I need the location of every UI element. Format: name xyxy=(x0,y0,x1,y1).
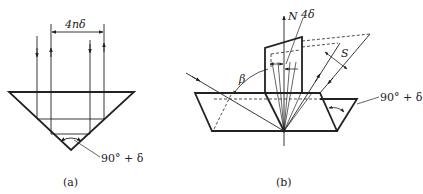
prism-a xyxy=(9,92,134,150)
panel-a: 4nδ 90° + δ (a) xyxy=(9,18,144,189)
beta-label: β xyxy=(238,73,245,86)
angle-label: 90° + δ xyxy=(101,152,144,165)
exit-arrow-icon xyxy=(328,78,333,84)
exit-ray-2 xyxy=(320,34,370,93)
angle-label-b: 90° + δ xyxy=(380,91,423,104)
angle-leader xyxy=(74,140,100,157)
caption-a: (a) xyxy=(63,176,78,189)
separation-label: S xyxy=(341,47,349,60)
optics-diagram: 4nδ 90° + δ (a) N xyxy=(0,0,423,194)
dimension-label: 4nδ xyxy=(64,18,86,31)
normal-label: N xyxy=(287,10,298,23)
exit-arrow-icon xyxy=(315,74,320,82)
upright-prism xyxy=(265,37,302,93)
dashed-line xyxy=(271,50,300,54)
right-angle-arc xyxy=(329,108,344,113)
panel-b: N 4δ S β 90° + δ ( xyxy=(186,8,423,189)
apex-angle-arc xyxy=(61,138,81,141)
dashed-line xyxy=(302,43,338,47)
dashed-line xyxy=(302,34,370,41)
origin-point xyxy=(282,129,285,132)
caption-b: (b) xyxy=(276,176,292,189)
incident-arrow-icon xyxy=(192,77,200,82)
dashed-line xyxy=(213,95,231,131)
angle-leader-b xyxy=(357,97,379,104)
deviation-label: 4δ xyxy=(300,8,315,21)
